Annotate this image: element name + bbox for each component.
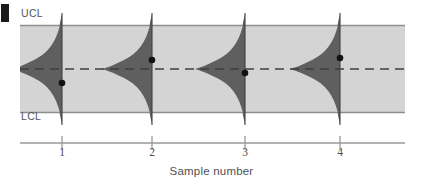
sample-mean-point-3	[242, 70, 249, 77]
ucl-label: UCL	[21, 7, 43, 19]
sample-mean-point-2	[149, 57, 156, 64]
lcl-label: LCL	[21, 110, 41, 122]
x-axis-caption: Sample number	[0, 165, 423, 177]
x-tick-label-2: 2	[142, 146, 162, 158]
x-tick-label-1: 1	[52, 146, 72, 158]
sample-mean-point-4	[337, 55, 344, 62]
x-tick-label-3: 3	[235, 146, 255, 158]
x-tick-label-4: 4	[330, 146, 350, 158]
control-chart-figure: UCL LCL 1 2 3 4 Sample number	[0, 0, 423, 191]
control-chart-canvas	[0, 0, 423, 191]
sample-mean-point-1	[59, 80, 66, 87]
corner-block-marker	[1, 4, 9, 22]
